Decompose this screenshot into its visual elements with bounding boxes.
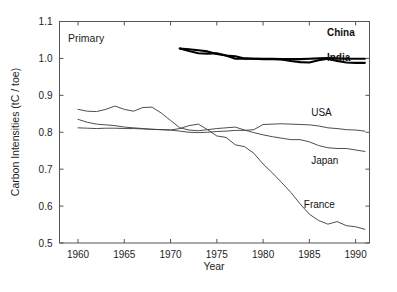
y-tick-label-0.7: 0.7 (39, 164, 53, 175)
y-tick-label-1.0: 1.0 (39, 53, 53, 64)
chart-figure: 1960196519701975198019851990 0.50.60.70.… (0, 0, 397, 292)
y-tick-label-0.5: 0.5 (39, 238, 53, 249)
y-tick-label-0.8: 0.8 (39, 127, 53, 138)
x-tick-label-1970: 1970 (159, 249, 182, 260)
series-label-india: India (327, 52, 351, 63)
x-tick-label-1965: 1965 (113, 249, 136, 260)
line-chart-canvas: 1960196519701975198019851990 0.50.60.70.… (0, 0, 397, 292)
x-axis-title: Year (203, 260, 225, 272)
series-label-france: France (304, 199, 336, 210)
y-tick-label-0.6: 0.6 (39, 201, 53, 212)
x-tick-label-1975: 1975 (206, 249, 229, 260)
series-label-japan: Japan (311, 155, 338, 166)
series-label-usa: USA (311, 107, 332, 118)
x-tick-label-1980: 1980 (252, 249, 275, 260)
panel-annotation-label: Primary (68, 32, 105, 44)
x-tick-label-1990: 1990 (344, 249, 367, 260)
y-tick-label-0.9: 0.9 (39, 90, 53, 101)
series-label-china: China (327, 27, 355, 38)
x-tick-label-1960: 1960 (67, 249, 90, 260)
y-axis-title: Carbon Intensities (tC / toe) (9, 68, 21, 196)
y-tick-label-1.1: 1.1 (39, 16, 53, 27)
x-tick-label-1985: 1985 (298, 249, 321, 260)
